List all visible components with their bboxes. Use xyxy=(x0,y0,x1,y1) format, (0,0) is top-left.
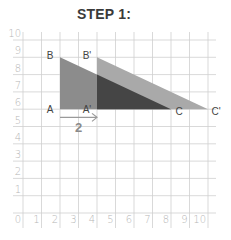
vertex-label-a: A xyxy=(47,104,54,115)
translation-amount-label: 2 xyxy=(75,120,82,135)
y-tick-label: 2 xyxy=(15,166,21,177)
y-tick-label: 5 xyxy=(15,115,21,126)
x-tick-label: 10 xyxy=(193,214,206,225)
vertex-label-c: C xyxy=(175,106,182,117)
y-tick-label: 6 xyxy=(15,97,21,108)
x-tick-label: 3 xyxy=(70,214,76,225)
y-tick-label: 10 xyxy=(8,28,21,39)
x-tick-label: 8 xyxy=(163,214,169,225)
y-tick-label: 1 xyxy=(15,184,21,195)
vertex-label-a-prime: A' xyxy=(83,104,92,115)
y-tick-label: 3 xyxy=(15,149,21,160)
x-tick-label: 7 xyxy=(144,214,150,225)
y-tick-label: 8 xyxy=(15,63,21,74)
y-tick-label: 9 xyxy=(15,45,21,56)
y-tick-label: 7 xyxy=(15,80,21,91)
x-tick-label: 1 xyxy=(33,214,39,225)
vertex-label-b-prime: B' xyxy=(83,50,92,61)
translation-diagram: 12345678910012345678910 ABCA'B'C' 2 xyxy=(0,0,231,240)
vertex-label-c-prime: C' xyxy=(211,106,220,117)
x-tick-label: 9 xyxy=(181,214,187,225)
x-tick-label: 0 xyxy=(15,214,21,225)
y-tick-label: 4 xyxy=(15,132,21,143)
x-tick-label: 6 xyxy=(126,214,132,225)
x-tick-label: 5 xyxy=(107,214,113,225)
vertex-label-b: B xyxy=(47,50,54,61)
grid xyxy=(13,32,216,228)
x-tick-label: 2 xyxy=(52,214,58,225)
x-tick-label: 4 xyxy=(89,214,95,225)
